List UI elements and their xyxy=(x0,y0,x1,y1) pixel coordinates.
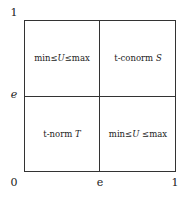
y-axis-label-e: e xyxy=(11,89,18,101)
quadrant-top-left: min≤U≤max xyxy=(24,20,100,96)
x-axis-label-e: e xyxy=(97,177,104,189)
quadrant-label: min≤U ≤max xyxy=(109,129,167,139)
quadrant-top-right: t-conorm S xyxy=(100,20,176,96)
y-axis-label-1: 1 xyxy=(11,7,18,19)
quadrant-label: t-norm T xyxy=(43,129,80,139)
x-axis-label-1: 1 xyxy=(172,177,179,189)
quadrant-label: min≤U≤max xyxy=(34,53,90,63)
quadrant-bottom-right: min≤U ≤max xyxy=(100,96,176,172)
origin-label-0: 0 xyxy=(11,177,18,189)
quadrant-bottom-left: t-norm T xyxy=(24,96,100,172)
quadrant-label: t-conorm S xyxy=(114,53,161,63)
